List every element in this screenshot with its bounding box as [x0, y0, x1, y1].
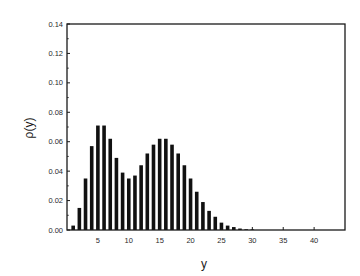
bar	[226, 226, 230, 230]
bar	[158, 139, 162, 230]
x-tick-label: 25	[217, 236, 225, 245]
x-tick-label: 5	[96, 236, 100, 245]
bar	[133, 176, 137, 230]
bar	[127, 179, 131, 231]
bar	[183, 165, 187, 230]
bar	[152, 145, 156, 230]
x-axis-label: y	[201, 257, 207, 271]
y-tick-label: 0.12	[48, 49, 63, 58]
y-tick-label: 0.04	[48, 167, 63, 176]
bar	[71, 226, 75, 230]
bar	[108, 139, 112, 230]
bar	[176, 153, 180, 230]
bars-group	[71, 126, 254, 230]
y-tick-label: 0.10	[48, 78, 63, 87]
bar	[201, 202, 205, 230]
bar	[121, 173, 125, 230]
bar	[84, 179, 88, 231]
bar	[195, 192, 199, 230]
x-tick-label: 15	[155, 236, 163, 245]
bar	[146, 153, 150, 230]
y-tick-label: 0.06	[48, 137, 63, 146]
bar	[164, 139, 168, 230]
bar	[139, 165, 143, 230]
y-axis-label: ρ(y)	[22, 118, 36, 139]
x-tick-label: 40	[310, 236, 318, 245]
x-tick-label: 30	[248, 236, 256, 245]
x-tick-label: 35	[279, 236, 287, 245]
bar	[90, 146, 94, 230]
bar	[115, 158, 119, 230]
x-tick-label: 10	[125, 236, 133, 245]
x-tick-label: 20	[186, 236, 194, 245]
bar	[102, 126, 106, 230]
y-tick-label: 0.08	[48, 108, 63, 117]
bar	[78, 208, 82, 230]
y-tick-label: 0.14	[48, 20, 63, 29]
bar-chart: 0.000.020.040.060.080.100.120.14 5101520…	[0, 0, 360, 276]
bar	[170, 145, 174, 230]
bar	[213, 217, 217, 230]
y-tick-label: 0.02	[48, 196, 63, 205]
bar	[96, 126, 100, 230]
bar	[207, 211, 211, 230]
bar	[189, 179, 193, 231]
y-tick-label: 0.00	[48, 226, 63, 235]
